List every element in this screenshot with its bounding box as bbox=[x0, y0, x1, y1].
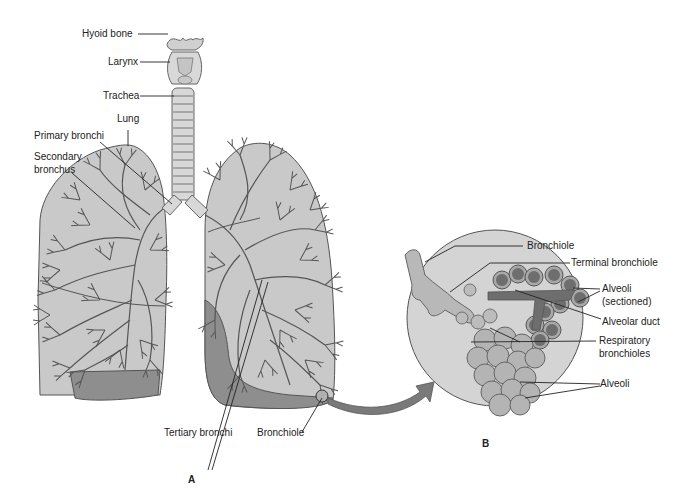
label-bronchiole-a: Bronchiole bbox=[257, 427, 304, 439]
label-terminal-bronchiole: Terminal bronchiole bbox=[571, 257, 658, 269]
label-respiratory-bronchioles-line2: bronchioles bbox=[599, 348, 650, 360]
right-lung bbox=[33, 145, 173, 400]
larynx bbox=[167, 38, 203, 84]
magnify-arrow-icon bbox=[328, 382, 434, 414]
respiratory-system-diagram: Hyoid bone Larynx Trachea Lung Primary b… bbox=[0, 0, 688, 489]
label-trachea: Trachea bbox=[103, 90, 139, 102]
label-secondary-bronchus-line2: bronchus bbox=[34, 164, 75, 176]
label-hyoid-bone: Hyoid bone bbox=[82, 28, 133, 40]
panel-a-illustration bbox=[33, 34, 434, 470]
label-larynx: Larynx bbox=[108, 56, 138, 68]
label-lung: Lung bbox=[117, 113, 139, 125]
label-primary-bronchi: Primary bronchi bbox=[34, 130, 104, 142]
label-respiratory-bronchioles-line1: Respiratory bbox=[599, 335, 650, 347]
trachea bbox=[162, 88, 208, 218]
label-secondary-bronchus-line1: Secondary bbox=[34, 151, 82, 163]
label-bronchiole-b: Bronchiole bbox=[527, 240, 574, 252]
label-alveoli-sectioned-line1: Alveoli bbox=[602, 283, 631, 295]
label-tertiary-bronchi: Tertiary bronchi bbox=[164, 427, 232, 439]
bronchiole-marker bbox=[316, 390, 328, 402]
label-alveolar-duct: Alveolar duct bbox=[602, 316, 660, 328]
panel-letter-a: A bbox=[188, 474, 195, 485]
diagram-canvas bbox=[0, 0, 688, 489]
label-alveoli: Alveoli bbox=[600, 378, 629, 390]
panel-letter-b: B bbox=[482, 438, 489, 449]
label-alveoli-sectioned-line2: (sectioned) bbox=[602, 296, 651, 308]
left-lung bbox=[198, 137, 345, 409]
